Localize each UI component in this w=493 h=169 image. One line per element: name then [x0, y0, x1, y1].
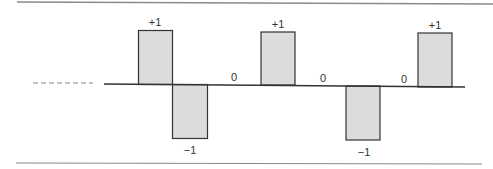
label-minus-one-2: −1: [358, 146, 371, 158]
top-rule: [17, 2, 493, 4]
pulse-bar-positive-1: [139, 31, 173, 85]
label-plus-one-3: +1: [429, 19, 442, 31]
label-plus-one-1: +1: [149, 16, 162, 28]
label-minus-one-1: −1: [184, 144, 197, 156]
bottom-rule: [16, 163, 482, 164]
pulse-bar-negative-1: [173, 85, 208, 139]
label-zero-2: 0: [320, 72, 326, 84]
label-plus-one-2: +1: [272, 18, 285, 30]
pulse-diagram: +1 −1 0 +1 0 −1 0 +1: [0, 0, 493, 169]
pulse-bar-negative-2: [346, 86, 380, 140]
pulse-bar-positive-2: [261, 32, 295, 85]
pulse-bar-positive-3: [418, 33, 452, 87]
label-zero-3: 0: [401, 73, 407, 85]
label-zero-1: 0: [231, 71, 237, 83]
